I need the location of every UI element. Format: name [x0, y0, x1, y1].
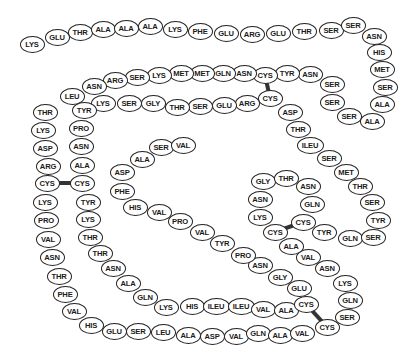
residue-gln: GLN — [338, 292, 363, 309]
residue-cys: CYS — [35, 175, 60, 192]
residue-arg: ARG — [36, 158, 61, 175]
residue-thr: THR — [165, 99, 190, 116]
residue-val: VAL — [224, 328, 249, 345]
residue-arg: ARG — [235, 95, 260, 112]
residue-asn: ASN — [362, 28, 387, 45]
residue-ileu: ILEU — [203, 298, 230, 315]
residue-ala: ALA — [138, 18, 163, 35]
residue-ala: ALA — [116, 275, 141, 292]
residue-ser: SER — [319, 22, 344, 39]
residue-tyr: TYR — [275, 65, 300, 82]
residue-gly: GLY — [141, 95, 166, 112]
residue-ser: SER — [149, 139, 174, 156]
residue-ser: SER — [320, 94, 345, 111]
residue-lys: LYS — [154, 299, 179, 316]
residue-val: VAL — [36, 231, 61, 248]
residue-asp: ASP — [200, 328, 225, 345]
residue-tyr: TYR — [210, 235, 235, 252]
residue-lys: LYS — [76, 211, 101, 228]
residue-ser: SER — [335, 309, 360, 326]
residue-cys: CYS — [291, 214, 316, 231]
residue-thr: THR — [88, 245, 113, 262]
residue-his: HIS — [123, 199, 148, 216]
residue-asn: ASN — [82, 78, 107, 95]
residue-tyr: TYR — [366, 212, 391, 229]
residue-asp: ASP — [33, 140, 58, 157]
residue-pro: PRO — [231, 247, 256, 264]
residue-phe: PHE — [110, 183, 135, 200]
residue-ileu: ILEU — [297, 137, 324, 154]
residue-met: MET — [370, 61, 395, 78]
residue-ser: SER — [320, 76, 345, 93]
residue-leu: LEU — [151, 324, 176, 341]
residue-ser: SER — [125, 69, 150, 86]
residue-thr: THR — [33, 104, 58, 121]
residue-lys: LYS — [31, 122, 56, 139]
residue-ser: SER — [126, 323, 151, 340]
residue-val: VAL — [171, 137, 196, 154]
residue-glu: GLU — [212, 97, 237, 114]
residue-cys: CYS — [70, 175, 95, 192]
residue-asn: ASN — [296, 178, 321, 195]
residue-ala: ALA — [279, 238, 304, 255]
residue-asp: ASP — [278, 104, 303, 121]
residue-thr: THR — [292, 23, 317, 40]
residue-glu: GLU — [102, 323, 127, 340]
protein-sequence-diagram: LYSGLUTHRALAALAALALYSPHEGLUARGGLUTHRSERS… — [0, 0, 411, 363]
residue-ala: ALA — [114, 20, 139, 37]
residue-his: HIS — [180, 298, 205, 315]
residue-lys: LYS — [20, 36, 45, 53]
residue-gly: GLY — [268, 269, 293, 286]
residue-arg: ARG — [240, 26, 265, 43]
residue-thr: THR — [47, 268, 72, 285]
residue-tyr: TYR — [72, 102, 97, 119]
residue-his: HIS — [367, 44, 392, 61]
residue-lys: LYS — [147, 67, 172, 84]
residue-lys: LYS — [333, 275, 358, 292]
residue-lys: LYS — [163, 21, 188, 38]
residue-lys: LYS — [248, 209, 273, 226]
residue-phe: PHE — [188, 23, 213, 40]
residue-ala: ALA — [70, 157, 95, 174]
residue-glu: GLU — [266, 25, 291, 42]
residue-asn: ASN — [298, 66, 323, 83]
residue-gln: GLN — [338, 230, 363, 247]
residue-ala: ALA — [268, 327, 293, 344]
residue-tyr: TYR — [76, 194, 101, 211]
residue-cys: CYS — [263, 224, 288, 241]
residue-ser: SER — [337, 108, 362, 125]
residue-met: MET — [169, 65, 194, 82]
residue-pro: PRO — [34, 212, 59, 229]
residue-val: VAL — [251, 301, 276, 318]
residue-ser: SER — [317, 150, 342, 167]
residue-asn: ASN — [69, 138, 94, 155]
residue-ser: SER — [117, 95, 142, 112]
residue-ala: ALA — [130, 151, 155, 168]
residue-ser: SER — [341, 17, 366, 34]
residue-thr: THR — [68, 24, 93, 41]
residue-val: VAL — [190, 224, 215, 241]
residue-gln: GLN — [300, 196, 325, 213]
residue-val: VAL — [147, 204, 172, 221]
residue-phe: PHE — [53, 286, 78, 303]
residue-ser: SER — [361, 229, 386, 246]
residue-gln: GLN — [133, 289, 158, 306]
residue-thr: THR — [78, 229, 103, 246]
residue-cys: CYS — [294, 296, 319, 313]
residue-ser: SER — [360, 194, 385, 211]
residue-asp: ASP — [110, 164, 135, 181]
residue-asn: ASN — [101, 260, 126, 277]
residue-ala: ALA — [176, 327, 201, 344]
residue-pro: PRO — [69, 120, 94, 137]
residue-asn: ASN — [248, 191, 273, 208]
residue-ala: ALA — [360, 113, 385, 130]
residue-cys: CYS — [258, 90, 283, 107]
residue-asn: ASN — [40, 249, 65, 266]
residue-gly: GLY — [251, 173, 276, 190]
residue-thr: THR — [286, 121, 311, 138]
residue-gln: GLN — [246, 325, 271, 342]
residue-ser: SER — [188, 98, 213, 115]
residue-ser: SER — [373, 79, 398, 96]
residue-lys: LYS — [33, 194, 58, 211]
residue-ala: ALA — [370, 96, 395, 113]
